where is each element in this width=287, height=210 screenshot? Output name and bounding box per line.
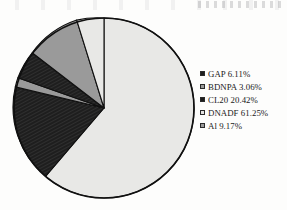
pie-chart xyxy=(10,14,198,202)
legend-label-al: Al 9.17% xyxy=(208,120,242,132)
legend-marker-gap xyxy=(200,71,205,76)
pie-chart-figure: GAP 6.11% BDNPA 3.06% CL20 20.42% DNADF … xyxy=(0,0,287,210)
legend-label-dnadf: DNADF 61.25% xyxy=(208,107,268,119)
legend-label-bdnpa: BDNPA 3.06% xyxy=(208,81,262,93)
legend-item-cl20: CL20 20.42% xyxy=(200,94,286,107)
legend-marker-cl20 xyxy=(200,97,205,102)
legend-label-gap: GAP 6.11% xyxy=(208,68,250,80)
legend-marker-bdnpa xyxy=(200,84,205,89)
chart-area: GAP 6.11% BDNPA 3.06% CL20 20.42% DNADF … xyxy=(0,0,287,210)
chart-legend: GAP 6.11% BDNPA 3.06% CL20 20.42% DNADF … xyxy=(200,68,286,133)
legend-item-al: Al 9.17% xyxy=(200,120,286,133)
legend-item-dnadf: DNADF 61.25% xyxy=(200,107,286,120)
legend-label-cl20: CL20 20.42% xyxy=(208,94,258,106)
legend-item-gap: GAP 6.11% xyxy=(200,68,286,81)
legend-marker-al xyxy=(200,123,205,128)
legend-item-bdnpa: BDNPA 3.06% xyxy=(200,81,286,94)
legend-marker-dnadf xyxy=(200,110,205,115)
